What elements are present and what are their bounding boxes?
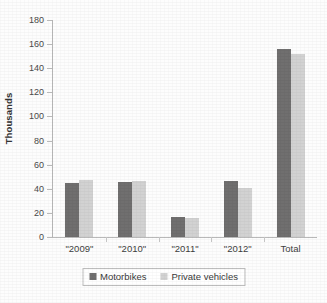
y-axis-tick-mark [47, 189, 52, 190]
bar-motorbikes [171, 217, 185, 237]
x-axis-category-label: "2011" [171, 243, 198, 254]
plot-area [53, 20, 317, 237]
bar-private-vehicles [238, 188, 252, 237]
x-axis-category-label: Total [281, 243, 301, 254]
bar-motorbikes [65, 183, 79, 237]
y-axis-tick-label: 140 [29, 63, 44, 73]
x-axis-tick-mark [106, 237, 107, 242]
y-axis-tick-mark [47, 165, 52, 166]
legend-entry-motorbikes[interactable]: Motorbikes [89, 271, 146, 282]
y-axis-tick-label: 40 [34, 184, 44, 194]
x-axis-category-labels: "2009""2010""2011""2012"Total [53, 243, 317, 259]
bar-motorbikes [277, 49, 291, 237]
bar-private-vehicles [185, 218, 199, 237]
x-axis-tick-mark [264, 237, 265, 242]
y-axis-tick-label: 60 [34, 160, 44, 170]
chart-legend: MotorbikesPrivate vehicles [82, 268, 245, 286]
bar-private-vehicles [132, 181, 146, 237]
y-axis-tick-mark [47, 20, 52, 21]
y-axis-tick-label: 100 [29, 111, 44, 121]
y-axis-tick-label: 160 [29, 39, 44, 49]
y-axis-tick-mark [47, 116, 52, 117]
legend-label: Motorbikes [100, 271, 146, 282]
bar-group [159, 20, 212, 237]
bar-group [53, 20, 106, 237]
legend-label: Private vehicles [171, 271, 238, 282]
bar-private-vehicles [79, 180, 93, 237]
bar-motorbikes [118, 182, 132, 237]
y-axis-title: Thousands [0, 0, 18, 237]
legend-swatch-icon [89, 273, 96, 280]
bar-group [211, 20, 264, 237]
bar-private-vehicles [291, 54, 305, 237]
y-axis-tick-labels: 020406080100120140160180 [18, 20, 48, 237]
x-axis-tick-mark [159, 237, 160, 242]
y-axis-tick-mark [47, 213, 52, 214]
y-axis-tick-label: 0 [39, 232, 44, 242]
x-axis-category-label: "2009" [65, 243, 93, 254]
x-axis-category-label: "2012" [224, 243, 252, 254]
y-axis-title-text: Thousands [4, 93, 15, 145]
x-axis-category-label: "2010" [118, 243, 146, 254]
bar-group [106, 20, 159, 237]
y-axis-tick-label: 180 [29, 15, 44, 25]
y-axis-tick-mark [47, 68, 52, 69]
bar-chart: Thousands 020406080100120140160180 "2009… [0, 0, 327, 303]
y-axis-tick-mark [47, 237, 52, 238]
y-axis-tick-label: 20 [34, 208, 44, 218]
bar-group [264, 20, 317, 237]
x-axis-tick-mark [211, 237, 212, 242]
y-axis-tick-mark [47, 141, 52, 142]
y-axis-tick-mark [47, 92, 52, 93]
y-axis-tick-label: 120 [29, 87, 44, 97]
y-axis-tick-mark [47, 44, 52, 45]
legend-swatch-icon [160, 273, 167, 280]
legend-entry-private-vehicles[interactable]: Private vehicles [160, 271, 238, 282]
x-axis-line [52, 237, 317, 238]
bar-motorbikes [224, 181, 238, 237]
y-axis-tick-label: 80 [34, 136, 44, 146]
